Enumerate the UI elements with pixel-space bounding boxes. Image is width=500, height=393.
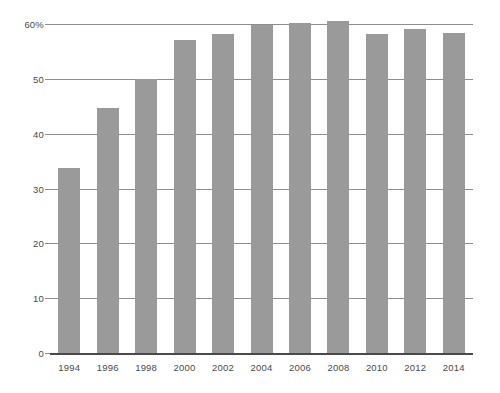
x-axis-tick-label: 2014 [443,362,465,373]
x-axis: 1994199619982000200220042006200820102012… [50,362,473,378]
x-axis-tick-label: 2008 [327,362,349,373]
bar-series [50,24,473,353]
y-axis-tick-label: 60% [24,19,44,30]
bar [289,23,311,353]
axis-baseline [50,353,473,355]
x-axis-tick-label: 2002 [212,362,234,373]
bar [404,29,426,353]
bar [97,108,119,353]
x-axis-tick-label: 1994 [58,362,80,373]
x-axis-tick-label: 2000 [174,362,196,373]
bar [212,34,234,353]
bar [58,168,80,353]
y-axis-tick-label: 50 [33,73,44,84]
y-axis-tick-mark [45,353,50,354]
bar [135,79,157,353]
x-axis-tick-label: 2004 [251,362,273,373]
plot-area [50,24,473,353]
x-axis-tick-label: 2006 [289,362,311,373]
x-axis-tick-label: 1996 [97,362,119,373]
bar [443,33,465,353]
x-axis-tick-label: 1998 [135,362,157,373]
y-axis-tick-label: 40 [33,128,44,139]
bar-chart: 0102030405060% 1994199619982000200220042… [0,0,500,393]
y-axis-tick-label: 10 [33,293,44,304]
y-axis-tick-label: 30 [33,183,44,194]
bar [174,40,196,353]
x-axis-tick-label: 2010 [366,362,388,373]
y-axis-tick-label: 0 [39,348,44,359]
bar [366,34,388,353]
x-axis-tick-label: 2012 [404,362,426,373]
bar [327,21,349,353]
bar [251,25,273,353]
y-axis-tick-label: 20 [33,238,44,249]
